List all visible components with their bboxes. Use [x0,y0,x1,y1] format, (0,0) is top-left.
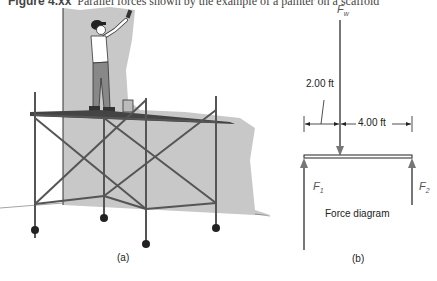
scaffold-illustration [0,0,437,281]
force-label-f1: F1 [313,180,324,194]
dimension-left: 2.00 ft [306,78,334,89]
beam [304,155,412,158]
force-label-fw: Fw [337,3,349,17]
force-diagram-title: Force diagram [325,208,389,219]
scaffold-wheels [31,214,220,248]
panel-a-label: (a) [117,252,129,263]
dimension-right: 4.00 ft [358,117,386,128]
paint-can [123,100,133,112]
panel-b-label: (b) [352,253,364,264]
force-label-f2: F2 [419,180,430,194]
